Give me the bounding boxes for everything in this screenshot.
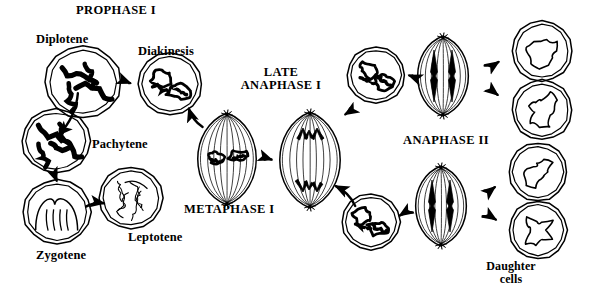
cell-early-anaphase-i <box>280 109 340 212</box>
cell-leptotene <box>99 168 163 229</box>
arrow-metaphase-to-anaphase <box>265 159 272 160</box>
cell-anaphase-ii-upper <box>418 33 469 120</box>
cell-anaphase-ii-lower <box>416 163 467 250</box>
label-pachytene: Pachytene <box>92 138 148 151</box>
label-anaphase-ii: ANAPHASE II <box>403 134 489 147</box>
meiosis-diagram: PROPHASE IDiploteneDiakinesisPachyteneZy… <box>0 0 597 296</box>
cell-daughter-upper-low <box>509 144 566 201</box>
diagram-canvas <box>0 0 597 296</box>
label-diakinesis: Diakinesis <box>138 45 194 58</box>
cell-diakinesis <box>138 53 201 115</box>
cell-telophase-i-upper <box>347 47 404 103</box>
label-prophase-i: PROPHASE I <box>76 4 156 17</box>
cell-pachytene <box>22 109 91 173</box>
label-late-anaphase-i: LATE ANAPHASE I <box>241 66 322 92</box>
label-leptotene: Leptotene <box>128 231 182 244</box>
arrow-ana2-upper-to-d2 <box>486 91 497 95</box>
cell-daughter-top-right <box>512 21 572 82</box>
arrow-ana2-upper-to-d1 <box>485 62 499 66</box>
arrow-zygotene-to-pachytene <box>56 172 57 180</box>
label-metaphase-i: METAPHASE I <box>184 203 275 216</box>
arrow-ana2-lower-to-d4 <box>483 216 496 219</box>
cell-daughter-lower-low <box>509 201 567 258</box>
cell-daughter-mid-right <box>512 79 571 139</box>
cell-zygotene <box>23 179 91 244</box>
arrow-telo-lower-to-ana2 <box>400 212 413 215</box>
label-diplotene: Diplotene <box>36 33 88 46</box>
arrow-anaphase-to-telo-upper <box>346 109 351 115</box>
cell-metaphase-i <box>198 110 257 209</box>
cell-diplotene <box>45 46 121 118</box>
arrow-anaphase-to-telo-lower <box>336 186 355 206</box>
arrow-diakinesis-to-metaphase <box>189 109 203 127</box>
label-zygotene: Zygotene <box>36 249 86 262</box>
cell-telophase-i-lower <box>342 194 400 250</box>
arrow-ana2-lower-to-d3 <box>484 187 494 191</box>
label-daughter-cells: Daughter cells <box>486 260 535 285</box>
